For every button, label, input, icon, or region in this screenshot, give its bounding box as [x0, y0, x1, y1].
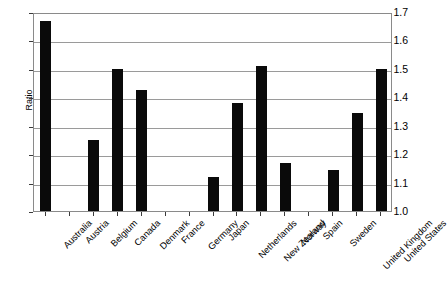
- bar: [376, 69, 387, 211]
- x-tick-mark: [284, 212, 285, 216]
- bar: [256, 66, 267, 211]
- x-tick-mark: [308, 212, 309, 216]
- x-tick-label: Sweden: [348, 218, 379, 249]
- x-tick-mark: [380, 212, 381, 216]
- bar: [280, 163, 291, 211]
- x-tick-mark: [141, 212, 142, 216]
- x-tick-mark: [45, 212, 46, 216]
- bar: [232, 103, 243, 211]
- bar: [136, 90, 147, 211]
- x-tick-mark: [356, 212, 357, 216]
- x-tick-mark: [69, 212, 70, 216]
- bar: [112, 69, 123, 211]
- bar: [328, 170, 339, 211]
- bar: [40, 21, 51, 211]
- gridline: [34, 71, 391, 72]
- plot-area: [33, 13, 392, 212]
- x-tick-mark: [165, 212, 166, 216]
- x-tick-mark: [117, 212, 118, 216]
- x-tick-label: Belgium: [109, 218, 140, 249]
- bar: [88, 140, 99, 211]
- gridline: [34, 42, 391, 43]
- gridline: [34, 128, 391, 129]
- bar: [352, 113, 363, 211]
- y-tick-mark: [29, 212, 33, 213]
- x-tick-mark: [260, 212, 261, 216]
- gridline: [34, 99, 391, 100]
- x-tick-mark: [236, 212, 237, 216]
- x-tick-mark: [93, 212, 94, 216]
- bar: [208, 177, 219, 211]
- x-tick-mark: [189, 212, 190, 216]
- x-tick-mark: [213, 212, 214, 216]
- x-tick-mark: [332, 212, 333, 216]
